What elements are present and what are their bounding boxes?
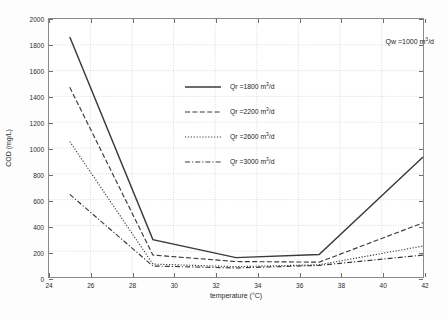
qw-annotation: Qw =1000 m3/d [385,36,434,45]
y-axis-tick-mark [49,253,53,254]
y-axis-tick-mark [49,149,53,150]
y-axis-tick-mark [419,123,423,124]
x-axis-tick-mark [425,273,426,277]
legend-label-1: Qr =1800 m3/d [230,82,274,90]
y-axis-tick-label: 800 [33,172,44,179]
x-axis-tick-mark [300,19,301,23]
x-axis-tick-label: 42 [421,282,428,289]
legend-label-suffix: /d [269,159,275,166]
x-axis-tick-label: 24 [45,282,52,289]
x-axis-tick-mark [258,19,259,23]
x-axis-tick-label: 38 [338,282,345,289]
y-axis-tick-mark [49,201,53,202]
y-axis-tick-mark [419,149,423,150]
legend-item-3[interactable]: Qr =2600 m3/d [185,124,303,149]
x-axis-tick-mark [133,19,134,23]
legend-label-2: Qr =2200 m3/d [230,107,274,115]
x-axis-tick-mark [91,19,92,23]
legend-line-sample-solid [185,82,221,92]
x-axis-tick-label: 28 [129,282,136,289]
legend: Qr =1800 m3/dQr =2200 m3/dQr =2600 m3/dQ… [185,74,303,174]
legend-label-suffix: /d [269,109,275,116]
y-axis-tick-mark [419,19,423,20]
legend-line-sample-dashed [185,107,221,117]
y-axis-tick-label: 2000 [30,16,44,23]
y-axis-tick-mark [49,71,53,72]
y-axis-tick-mark [49,45,53,46]
y-axis-tick-label: 0 [40,276,44,283]
x-axis-tick-mark [341,19,342,23]
y-axis-tick-label: 600 [33,198,44,205]
x-axis-tick-mark [216,273,217,277]
x-axis-tick-mark [49,19,50,23]
y-axis-tick-label: 1000 [30,146,44,153]
legend-line-sample-dashdot [185,157,221,167]
x-axis-tick-mark [174,19,175,23]
y-axis-tick-mark [49,175,53,176]
legend-label-prefix: Qr =2600 m [230,134,266,141]
qw-annotation-suffix: /d [428,38,434,45]
legend-label-suffix: /d [269,134,275,141]
x-axis-tick-label: 36 [296,282,303,289]
y-axis-tick-mark [49,279,53,280]
y-axis-tick-label: 1800 [30,42,44,49]
x-axis-tick-label: 32 [212,282,219,289]
x-axis-tick-mark [174,273,175,277]
y-axis-tick-mark [49,97,53,98]
y-axis-tick-mark [419,97,423,98]
y-axis-tick-label: 1600 [30,68,44,75]
x-axis-tick-mark [49,273,50,277]
legend-label-4: Qr =3000 m3/d [230,157,274,165]
y-axis-tick-label: 200 [33,250,44,257]
legend-label-3: Qr =2600 m3/d [230,132,274,140]
legend-label-prefix: Qr =3000 m [230,159,266,166]
x-axis-tick-mark [425,19,426,23]
x-axis-tick-mark [258,273,259,277]
y-axis-tick-mark [419,227,423,228]
y-axis-tick-mark [419,279,423,280]
y-axis-tick-mark [49,227,53,228]
x-axis-tick-mark [383,19,384,23]
legend-item-4[interactable]: Qr =3000 m3/d [185,149,303,174]
x-axis-tick-label: 34 [254,282,261,289]
x-axis-tick-mark [300,273,301,277]
y-axis-tick-mark [419,71,423,72]
legend-label-suffix: /d [269,84,275,91]
y-axis-tick-mark [419,201,423,202]
y-axis-tick-mark [419,253,423,254]
x-axis-tick-label: 30 [171,282,178,289]
y-axis-label: COD (mg/L) [5,129,12,167]
x-axis-tick-mark [216,19,217,23]
legend-label-prefix: Qr =1800 m [230,84,266,91]
x-axis-label: temperature (°C) [48,292,424,299]
qw-annotation-prefix: Qw =1000 m [385,38,425,45]
figure-canvas: 0200400600800100012001400160018002000242… [0,0,448,319]
x-axis-tick-label: 26 [87,282,94,289]
x-axis-tick-mark [91,273,92,277]
y-axis-tick-label: 400 [33,224,44,231]
x-axis-tick-mark [383,273,384,277]
x-axis-tick-mark [341,273,342,277]
legend-item-2[interactable]: Qr =2200 m3/d [185,99,303,124]
legend-label-prefix: Qr =2200 m [230,109,266,116]
x-axis-tick-mark [133,273,134,277]
y-axis-tick-label: 1400 [30,94,44,101]
y-axis-tick-label: 1200 [30,120,44,127]
x-axis-tick-label: 40 [380,282,387,289]
legend-line-sample-dotted [185,132,221,142]
y-axis-tick-mark [419,175,423,176]
legend-item-1[interactable]: Qr =1800 m3/d [185,74,303,99]
y-axis-tick-mark [49,123,53,124]
